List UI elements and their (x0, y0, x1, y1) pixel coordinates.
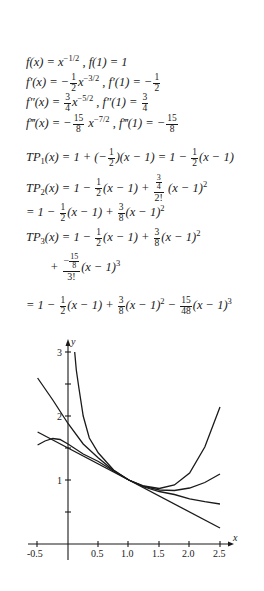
separator: , (110, 116, 119, 130)
text: f‴(x) = − (26, 116, 72, 130)
fraction: 12 (108, 148, 115, 169)
separator: , (93, 95, 102, 109)
denominator: 4 (142, 104, 149, 114)
equation-tp3: TP3(x) = 1 − 12(x − 1) + 38(x − 1)2 (26, 228, 200, 249)
equation-f-triple-prime: f‴(x) = −158 x−7/2 , f‴(1) = −158 (26, 114, 179, 135)
curve-tp2 (38, 378, 220, 491)
y-axis-arrow-icon (66, 339, 71, 346)
text: (x − 1) (193, 298, 228, 312)
text: (x − 1) (126, 298, 161, 312)
text: (x) = 1 + (− (45, 150, 107, 164)
text: f‴(1) = − (119, 116, 165, 130)
fraction: 158 (73, 114, 85, 135)
exponent: 3 (228, 296, 232, 306)
inner-fraction: 34 (156, 174, 162, 192)
exponent: 2 (203, 179, 207, 189)
exponent: −7/2 (94, 114, 110, 124)
fraction: 12 (60, 203, 67, 224)
x-tick-label: 1.5 (152, 548, 165, 559)
value: f(1) = 1 (89, 55, 128, 69)
separator: , (79, 55, 88, 69)
text: − (165, 298, 180, 312)
exponent: 2 (160, 203, 164, 213)
equation-tp2-simplified: = 1 − 12(x − 1) + 38(x − 1)2 (26, 203, 165, 224)
fraction: 38 (118, 296, 125, 317)
x-axis-label: x (232, 532, 238, 543)
compound-fraction: −1583! (63, 253, 81, 282)
inner-fraction: 158 (69, 253, 79, 271)
text: (x − 1) + (103, 181, 153, 195)
denominator: 2! (154, 193, 164, 204)
exponent: −5/2 (78, 93, 94, 103)
text: f(x) = x (26, 55, 64, 69)
fraction: 34 (142, 93, 149, 114)
denominator: 2 (108, 159, 115, 169)
text: = 1 − (26, 205, 59, 219)
equation-tp2: TP2(x) = 1 − 12(x − 1) + 342! (x − 1)2 (26, 174, 207, 203)
numerator: 34 (154, 174, 164, 193)
text: (x) = 1 − (45, 181, 95, 195)
denominator: 8 (118, 307, 125, 317)
text: )(x − 1) = 1 − (116, 150, 191, 164)
denominator: 8 (69, 262, 79, 270)
denominator: 2 (60, 214, 67, 224)
x-tick-label: 0.5 (91, 548, 104, 559)
y-axis-label: y (70, 336, 76, 347)
text: f′(1) = − (109, 75, 153, 89)
denominator: 2 (191, 159, 198, 169)
equation-f: f(x) = x−1/2 , f(1) = 1 (26, 56, 128, 69)
fraction: 34 (64, 93, 71, 114)
text: TP (26, 230, 41, 244)
denominator: 3! (63, 272, 81, 283)
equation-tp1: TP1(x) = 1 + (−12)(x − 1) = 1 − 12(x − 1… (26, 148, 234, 169)
text: (x) = 1 − (45, 230, 95, 244)
x-tick-label: 1.0 (121, 548, 134, 559)
text: = 1 − (26, 298, 59, 312)
curves (38, 352, 220, 528)
text: (x − 1) + (103, 230, 153, 244)
fraction: 12 (70, 73, 77, 94)
separator: , (99, 75, 108, 89)
text: + (50, 260, 62, 274)
fraction: 12 (191, 148, 198, 169)
exponent: −3/2 (84, 73, 100, 83)
fraction: 38 (118, 203, 125, 224)
y-tick-label: 1 (57, 475, 62, 486)
text: (x − 1) (161, 230, 196, 244)
exponent: 3 (116, 258, 120, 268)
x-tick-label: -0.5 (27, 548, 43, 559)
denominator: 2 (95, 189, 102, 199)
denominator: 8 (166, 125, 178, 135)
fraction: 12 (95, 228, 102, 249)
fraction: 12 (60, 296, 67, 317)
denominator: 2 (60, 307, 67, 317)
text: f′(x) = − (26, 75, 69, 89)
compound-fraction: 342! (154, 174, 164, 203)
text: TP (26, 181, 41, 195)
denominator: 4 (156, 183, 162, 191)
curve-f (75, 352, 220, 504)
denominator: 8 (154, 239, 161, 249)
fraction: 158 (166, 114, 178, 135)
text: (x − 1) + (67, 205, 117, 219)
denominator: 8 (118, 214, 125, 224)
denominator: 4 (64, 104, 71, 114)
text: (x − 1) (165, 181, 203, 195)
denominator: 48 (180, 307, 192, 317)
fraction: 12 (95, 178, 102, 199)
text: (x − 1) (199, 150, 234, 164)
numerator: −158 (63, 253, 81, 272)
equation-f-double-prime: f″(x) = 34x−5/2 , f″(1) = 34 (26, 93, 149, 114)
x-tick-label: 2.0 (182, 548, 195, 559)
denominator: 8 (73, 125, 85, 135)
text: f″(1) = (103, 95, 141, 109)
text: TP (26, 150, 41, 164)
text: x (85, 116, 94, 130)
y-tick-label: 3 (57, 347, 62, 358)
fraction: 12 (153, 73, 160, 94)
exponent: −1/2 (64, 53, 80, 63)
taylor-polynomial-graph: x y -0.5 0.5 1.0 1.5 2.0 2.5 1 2 3 (0, 330, 264, 570)
fraction: 1548 (180, 296, 192, 317)
equation-f-prime: f′(x) = −12x−3/2 , f′(1) = −12 (26, 73, 161, 94)
axes (28, 342, 228, 560)
